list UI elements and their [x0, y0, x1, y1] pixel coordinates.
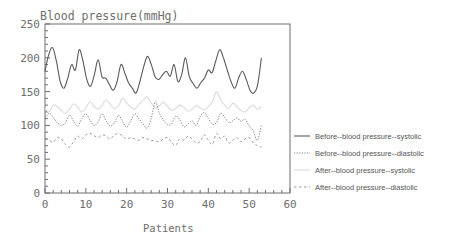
y-tick-label: 250 [20, 18, 40, 31]
y-tick-label: 50 [27, 153, 40, 166]
y-tick-label: 200 [20, 52, 40, 65]
x-tick-label: 40 [202, 198, 215, 211]
y-tick-label: 150 [20, 86, 40, 99]
chart-background [0, 0, 451, 244]
x-tick-label: 20 [120, 198, 133, 211]
x-tick-label: 60 [283, 198, 296, 211]
legend-label: Before--blood pressure--diastolic [315, 149, 424, 158]
blood-pressure-chart: Blood pressure(mmHg) 050100150200250 010… [0, 0, 451, 244]
legend-label: After--blood pressure--systolic [315, 166, 415, 175]
x-tick-label: 0 [42, 198, 49, 211]
x-tick-label: 50 [243, 198, 256, 211]
x-tick-label: 30 [161, 198, 174, 211]
x-tick-label: 10 [79, 198, 92, 211]
y-tick-label: 0 [33, 187, 40, 200]
chart-title: Blood pressure(mmHg) [40, 9, 178, 23]
y-tick-label: 100 [20, 119, 40, 132]
x-axis-label: Patients [143, 222, 194, 234]
legend-label: After--blood pressure--diastolic [315, 183, 418, 192]
legend-label: Before--blood pressure--systolic [315, 132, 422, 141]
